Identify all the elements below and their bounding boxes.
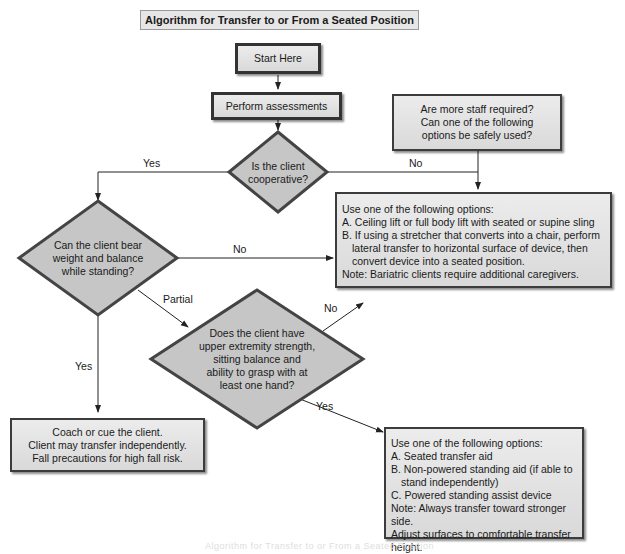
- coach-line: Coach or cue the client.: [52, 426, 162, 439]
- upper-line: upper extremity strength,: [199, 340, 315, 353]
- lift-line: Note: Bariatric clients require addition…: [342, 268, 610, 281]
- aid-line: Note: Always transfer toward stronger si…: [391, 502, 582, 528]
- staff-line: Are more staff required?: [420, 103, 533, 116]
- lift-line: B. If using a stretcher that converts in…: [342, 229, 610, 242]
- bear-weight-line: weight and balance: [53, 252, 144, 265]
- aid-line: stand independently): [391, 476, 582, 489]
- edge-label-upper-no: No: [324, 302, 337, 314]
- lift-options-box: Use one of the following options: A. Cei…: [335, 192, 612, 288]
- cooperative-question: Is the client cooperative?: [229, 160, 327, 186]
- cooperative-line: Is the client: [251, 160, 304, 173]
- coach-line: Client may transfer independently.: [28, 439, 187, 452]
- diagram-title: Algorithm for Transfer to or From a Seat…: [140, 10, 419, 30]
- edge-label-bear-partial: Partial: [163, 293, 193, 305]
- edge-label-upper-yes: Yes: [316, 400, 333, 412]
- edge-label-bear-no: No: [233, 243, 246, 255]
- figure-caption: Algorithm for Transfer to or From a Seat…: [205, 541, 434, 551]
- upper-line: sitting balance and: [213, 353, 301, 366]
- edge-label-cooperative-yes: Yes: [143, 157, 160, 169]
- more-staff-box: Are more staff required? Can one of the …: [392, 94, 562, 151]
- bear-weight-line: Can the client bear: [54, 239, 142, 252]
- coach-box: Coach or cue the client. Client may tran…: [10, 418, 205, 472]
- aid-options-box: Use one of the following options: A. Sea…: [384, 427, 584, 539]
- aid-line: C. Powered standing assist device: [391, 489, 582, 502]
- aid-line: B. Non-powered standing aid (if able to: [391, 463, 582, 476]
- edge-label-bear-yes: Yes: [75, 360, 92, 372]
- start-text: Start Here: [254, 52, 302, 65]
- lift-line: Use one of the following options:: [342, 203, 610, 216]
- bear-weight-line: while standing?: [62, 265, 134, 278]
- perform-assessments-box: Perform assessments: [211, 92, 342, 120]
- aid-line: Use one of the following options:: [391, 437, 582, 450]
- bear-weight-question: Can the client bear weight and balance w…: [40, 238, 156, 278]
- upper-line: ability to grasp with at: [207, 366, 308, 379]
- lift-line: convert device into a seated position.: [342, 255, 610, 268]
- coach-line: Fall precautions for high fall risk.: [32, 452, 183, 465]
- cooperative-line: cooperative?: [248, 173, 308, 186]
- aid-line: A. Seated transfer aid: [391, 450, 582, 463]
- upper-line: least one hand?: [220, 379, 295, 392]
- staff-line: Can one of the following: [421, 116, 534, 129]
- lift-line: A. Ceiling lift or full body lift with s…: [342, 216, 610, 229]
- assess-text: Perform assessments: [226, 100, 328, 113]
- edge-label-cooperative-no: No: [409, 157, 422, 169]
- upper-strength-question: Does the client have upper extremity str…: [185, 326, 329, 392]
- staff-line: options be safely used?: [422, 129, 532, 142]
- start-box: Start Here: [235, 43, 321, 74]
- lift-line: lateral transfer to horizontal surface o…: [342, 242, 610, 255]
- upper-line: Does the client have: [209, 327, 304, 340]
